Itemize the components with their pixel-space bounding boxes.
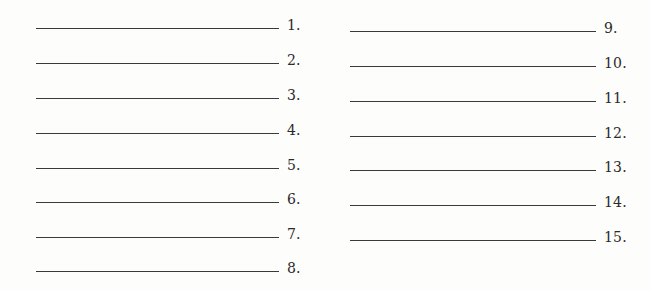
item-number: 13.: [604, 159, 627, 175]
answer-blank-line[interactable]: [350, 101, 596, 102]
answer-blank-line[interactable]: [350, 205, 596, 206]
answer-blank-line[interactable]: [36, 28, 279, 29]
item-number: 4.: [287, 122, 301, 138]
answer-item: 8.: [36, 252, 317, 272]
item-number: 12.: [604, 125, 627, 141]
answer-item: 7.: [36, 218, 317, 238]
item-number: 5.: [287, 157, 301, 173]
item-number: 2.: [287, 52, 301, 68]
answer-item: 6.: [36, 183, 317, 203]
answer-item: 15.: [350, 221, 634, 241]
answer-blank-line[interactable]: [36, 271, 279, 272]
answer-item: 14.: [350, 186, 634, 206]
item-number: 9.: [604, 20, 618, 36]
item-number: 6.: [287, 191, 301, 207]
answer-item: 4.: [36, 114, 317, 134]
answer-item: 11.: [350, 82, 634, 102]
answer-blank-line[interactable]: [36, 98, 279, 99]
answer-blank-line[interactable]: [350, 31, 596, 32]
item-number: 7.: [287, 226, 301, 242]
answer-item: 9.: [350, 12, 634, 32]
item-number: 11.: [604, 90, 627, 106]
answer-blank-line[interactable]: [36, 63, 279, 64]
answer-item: 3.: [36, 79, 317, 99]
answer-blank-line[interactable]: [36, 133, 279, 134]
answer-blank-line[interactable]: [36, 237, 279, 238]
item-number: 14.: [604, 194, 627, 210]
item-number: 8.: [287, 260, 301, 276]
answer-item: 2.: [36, 44, 317, 64]
answer-item: 1.: [36, 9, 317, 29]
answer-item: 5.: [36, 149, 317, 169]
item-number: 3.: [287, 87, 301, 103]
answer-blank-line[interactable]: [350, 170, 596, 171]
answer-blank-line[interactable]: [350, 66, 596, 67]
answer-item: 10.: [350, 47, 634, 67]
item-number: 1.: [287, 17, 301, 33]
answer-blank-line[interactable]: [36, 168, 279, 169]
answer-item: 12.: [350, 117, 634, 137]
answer-item: 13.: [350, 151, 634, 171]
item-number: 15.: [604, 229, 627, 245]
answer-blank-line[interactable]: [350, 240, 596, 241]
answer-blank-line[interactable]: [36, 202, 279, 203]
item-number: 10.: [604, 55, 627, 71]
answer-blank-line[interactable]: [350, 136, 596, 137]
